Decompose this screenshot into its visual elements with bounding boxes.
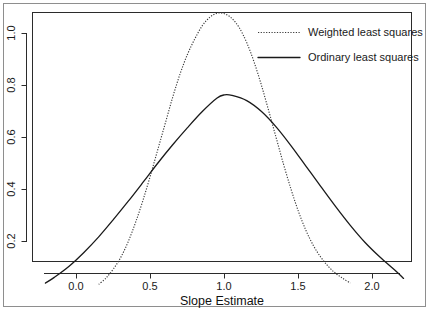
x-axis: 0.0 0.5 1.0 1.5 2.0 Slope Estimate — [44, 274, 400, 309]
series-ordinary-least-squares-curve — [45, 95, 403, 284]
y-tick-label-4: 1.0 — [5, 25, 17, 40]
legend-label-weighted-least-squares: Weighted least squares — [308, 26, 423, 38]
y-axis: 1.0 0.8 0.6 0.4 0.2 — [5, 25, 27, 248]
x-tick-label-2: 1.0 — [216, 280, 231, 292]
legend-label-ordinary-least-squares: Ordinary least squares — [308, 51, 419, 63]
x-tick-label-1: 0.5 — [142, 280, 157, 292]
plot-area-box — [33, 13, 412, 262]
y-tick-label-0: 0.2 — [5, 233, 17, 248]
density-plot-figure: 0.0 0.5 1.0 1.5 2.0 Slope Estimate 1.0 0… — [0, 0, 430, 311]
y-tick-label-2: 0.6 — [5, 129, 17, 144]
x-axis-title: Slope Estimate — [180, 294, 264, 308]
y-tick-label-1: 0.4 — [5, 181, 17, 196]
x-tick-label-0: 0.0 — [68, 280, 83, 292]
plot-canvas: 0.0 0.5 1.0 1.5 2.0 Slope Estimate 1.0 0… — [0, 0, 430, 311]
x-tick-label-3: 1.5 — [290, 280, 305, 292]
legend: Weighted least squares Ordinary least sq… — [258, 26, 423, 63]
x-tick-label-4: 2.0 — [364, 280, 379, 292]
y-tick-label-3: 0.8 — [5, 77, 17, 92]
